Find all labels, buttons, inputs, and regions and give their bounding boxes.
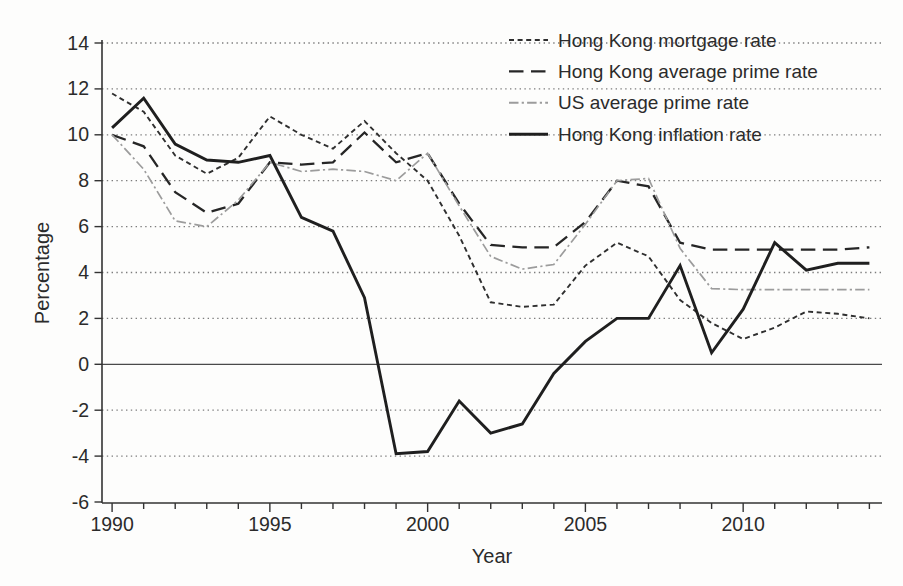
legend-label-2: Hong Kong average prime rate xyxy=(558,61,818,82)
y-tick-label-0: 0 xyxy=(78,353,89,375)
axes: 14121086420-2-4-619901995200020052010 xyxy=(67,32,882,536)
legend-label-3: US average prime rate xyxy=(558,92,749,113)
legend-item-1: Hong Kong mortgage rate xyxy=(509,30,777,51)
y-tick-label--6: -6 xyxy=(72,491,89,513)
legend-label-1: Hong Kong mortgage rate xyxy=(558,30,777,51)
series-line-solid xyxy=(112,98,869,454)
y-tick-label-4: 4 xyxy=(78,261,89,283)
series-line-dash-dot xyxy=(112,135,869,290)
y-tick-label-8: 8 xyxy=(78,169,89,191)
x-tick-label-2005: 2005 xyxy=(564,513,608,535)
x-tick-label-1995: 1995 xyxy=(248,513,292,535)
y-tick-label--4: -4 xyxy=(72,445,89,467)
y-tick-label-6: 6 xyxy=(78,215,89,237)
x-tick-label-2000: 2000 xyxy=(406,513,450,535)
y-tick-label-12: 12 xyxy=(67,77,89,99)
y-tick-label-2: 2 xyxy=(78,307,89,329)
y-tick-label-10: 10 xyxy=(67,123,89,145)
legend-label-4: Hong Kong inflation rate xyxy=(558,124,762,145)
x-tick-label-1990: 1990 xyxy=(90,513,134,535)
x-axis-title: Year xyxy=(472,545,513,567)
legend-item-3: US average prime rate xyxy=(509,92,749,113)
y-tick-label--2: -2 xyxy=(72,399,89,421)
legend: Hong Kong mortgage rateHong Kong average… xyxy=(509,30,818,145)
legend-item-2: Hong Kong average prime rate xyxy=(509,61,818,82)
series-line-long-dash xyxy=(112,133,869,250)
y-tick-label-14: 14 xyxy=(67,32,89,54)
y-axis-title: Percentage xyxy=(31,222,53,324)
chart-figure: 14121086420-2-4-619901995200020052010 Ho… xyxy=(0,0,903,586)
legend-item-4: Hong Kong inflation rate xyxy=(509,124,762,145)
series-lines xyxy=(112,94,869,454)
line-chart: 14121086420-2-4-619901995200020052010 Ho… xyxy=(0,0,903,586)
x-tick-label-2010: 2010 xyxy=(721,513,765,535)
